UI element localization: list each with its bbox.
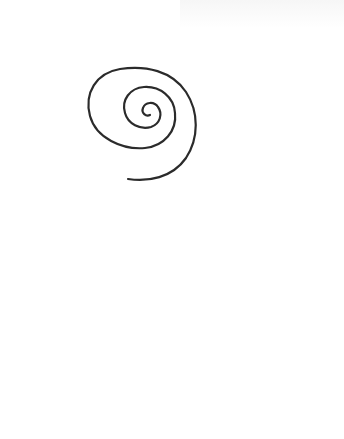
diagram-canvas bbox=[0, 0, 344, 439]
spiral-curve-path-drawn bbox=[88, 68, 195, 180]
figures bbox=[0, 0, 344, 439]
spiral-figure-drawn bbox=[88, 68, 195, 180]
